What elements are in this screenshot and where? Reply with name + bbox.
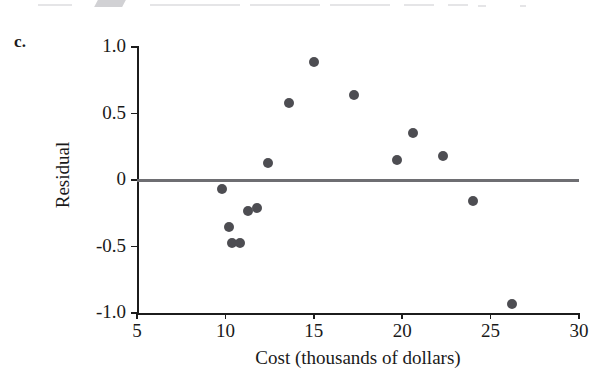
x-tick-label: 15 — [288, 320, 340, 342]
x-tick-mark — [136, 313, 138, 319]
y-tick-label: 0.5 — [64, 102, 126, 124]
x-tick-mark — [401, 313, 403, 319]
y-tick-mark — [131, 179, 137, 181]
scan-artifact — [150, 4, 240, 6]
y-tick-mark — [131, 246, 137, 248]
x-axis-title: Cost (thousands of dollars) — [137, 347, 579, 369]
scan-artifact — [478, 5, 486, 7]
data-point — [392, 155, 402, 165]
y-tick-mark — [131, 113, 137, 115]
x-tick-label: 25 — [465, 320, 517, 342]
data-point — [438, 151, 448, 161]
x-tick-label: 20 — [376, 320, 428, 342]
data-point — [224, 222, 234, 232]
x-tick-label: 30 — [553, 320, 594, 342]
x-axis-line — [137, 313, 579, 315]
data-point — [468, 196, 478, 206]
y-tick-mark — [131, 46, 137, 48]
residual-scatter-figure: c. Residual Cost (thousands of dollars) … — [0, 0, 594, 386]
scan-artifact — [250, 4, 320, 6]
data-point — [217, 184, 227, 194]
data-point — [309, 57, 319, 67]
data-point — [408, 128, 418, 138]
scan-artifact — [38, 4, 72, 6]
data-point — [263, 158, 273, 168]
data-point — [507, 299, 517, 309]
x-tick-label: 10 — [199, 320, 251, 342]
x-tick-mark — [225, 313, 227, 319]
y-tick-label: -0.5 — [64, 235, 126, 257]
scan-artifact — [404, 4, 434, 6]
scan-artifact — [94, 0, 126, 7]
data-point — [349, 90, 359, 100]
panel-letter: c. — [14, 32, 26, 52]
scan-artifact — [448, 4, 468, 6]
data-point — [284, 98, 294, 108]
zero-reference-line — [137, 179, 579, 182]
x-tick-mark — [490, 313, 492, 319]
data-point — [235, 238, 245, 248]
y-tick-label: 1.0 — [64, 35, 126, 57]
x-tick-mark — [578, 313, 580, 319]
scan-artifact — [520, 5, 526, 7]
scan-artifact — [330, 4, 390, 6]
y-tick-label: 0 — [64, 168, 126, 190]
data-point — [252, 203, 262, 213]
x-tick-mark — [313, 313, 315, 319]
x-tick-label: 5 — [111, 320, 163, 342]
